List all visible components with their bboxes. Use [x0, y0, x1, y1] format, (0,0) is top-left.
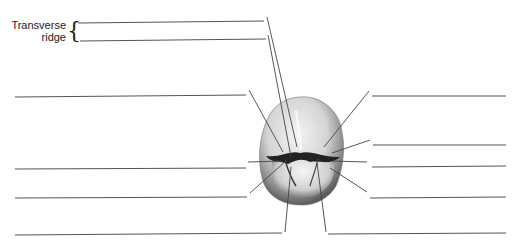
tooth-illustration — [260, 97, 344, 205]
answer-lines-right — [328, 96, 506, 234]
diagram-graphic — [0, 0, 521, 247]
diagram-canvas: Transverse ridge { — [0, 0, 521, 247]
answer-lines-left — [15, 21, 282, 235]
